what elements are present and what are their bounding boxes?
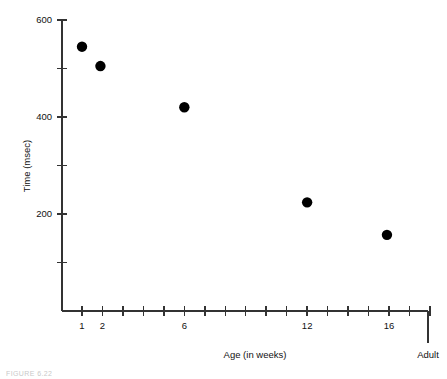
- scatter-chart: 2004006001261216AdultAge (in weeks)Time …: [0, 0, 447, 379]
- x-tick-label-1: 1: [79, 320, 84, 331]
- x-tick-label-adult: Adult: [417, 349, 439, 360]
- figure-container: 2004006001261216AdultAge (in weeks)Time …: [0, 0, 447, 379]
- y-tick-label-600: 600: [36, 14, 52, 25]
- data-point-4: [382, 230, 392, 240]
- x-tick-label-6: 6: [182, 320, 187, 331]
- data-point-2: [179, 102, 189, 112]
- y-axis-title: Time (msec): [21, 140, 32, 192]
- figure-caption: FIGURE 6.22: [6, 370, 52, 379]
- y-tick-label-200: 200: [36, 208, 52, 219]
- data-point-0: [77, 41, 87, 51]
- y-tick-label-400: 400: [36, 111, 52, 122]
- data-point-3: [302, 197, 312, 207]
- data-point-1: [95, 61, 105, 71]
- x-tick-label-2: 2: [100, 320, 105, 331]
- x-tick-label-16: 16: [384, 320, 395, 331]
- x-axis-title: Age (in weeks): [224, 349, 287, 360]
- x-tick-label-12: 12: [302, 320, 313, 331]
